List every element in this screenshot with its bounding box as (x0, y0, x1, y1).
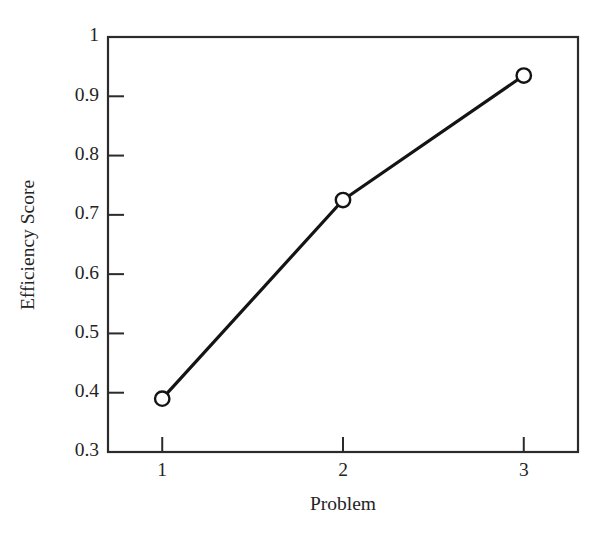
data-point-marker-1 (155, 391, 169, 405)
chart-figure: 1 0.9 0.8 0.7 0.6 0.5 0.4 0.3 1 2 3 Prob… (0, 0, 607, 534)
line-chart-canvas: 1 0.9 0.8 0.7 0.6 0.5 0.4 0.3 1 2 3 Prob… (0, 0, 607, 534)
x-tick-label-3: 3 (519, 459, 529, 480)
x-tick-label-2: 2 (338, 459, 348, 480)
y-tick-label-0_4: 0.4 (75, 380, 100, 401)
y-tick-label-0_9: 0.9 (75, 84, 99, 105)
x-axis-title: Problem (310, 493, 376, 514)
y-axis-title: Efficiency Score (17, 180, 38, 310)
y-tick-label-0_7: 0.7 (75, 202, 100, 223)
y-tick-label-0_6: 0.6 (75, 262, 100, 283)
y-tick-label-0_3: 0.3 (75, 439, 99, 460)
x-tick-label-1: 1 (157, 459, 167, 480)
data-point-marker-3 (517, 68, 531, 82)
y-tick-label-0_5: 0.5 (75, 321, 99, 342)
y-tick-label-1: 1 (89, 24, 99, 45)
y-tick-label-0_8: 0.8 (75, 143, 99, 164)
data-point-marker-2 (336, 193, 350, 207)
